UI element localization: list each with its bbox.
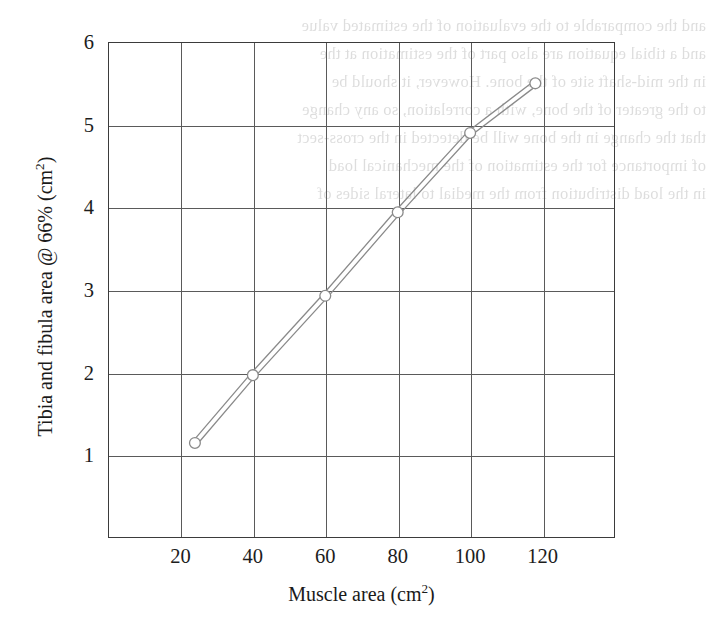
series-data-layer <box>0 0 709 631</box>
series-line <box>197 85 537 445</box>
scatter-line-chart: 654321 20406080100120 Muscle area (cm2) … <box>0 0 709 631</box>
data-point-marker <box>247 370 258 381</box>
data-point-marker <box>320 290 331 301</box>
data-point-marker <box>392 207 403 218</box>
data-point-marker <box>465 128 476 139</box>
data-point-marker <box>530 78 541 89</box>
data-point-marker <box>190 438 201 449</box>
series-line <box>193 82 533 442</box>
